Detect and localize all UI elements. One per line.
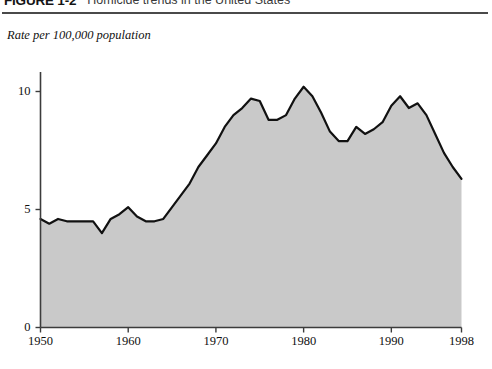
y-tick-label: 5 xyxy=(1,202,31,217)
x-tick-label: 1990 xyxy=(366,334,416,349)
x-tick-label: 1970 xyxy=(191,334,241,349)
chart-area-series xyxy=(41,87,462,328)
x-tick-label: 1980 xyxy=(279,334,329,349)
chart-plot-area xyxy=(0,0,492,369)
x-tick-label: 1950 xyxy=(16,334,66,349)
figure-container: FIGURE 1-2 Homicide trends in the United… xyxy=(0,0,492,369)
x-tick-label: 1960 xyxy=(103,334,153,349)
x-tick-label: 1998 xyxy=(437,334,487,349)
y-tick-label: 10 xyxy=(1,84,31,99)
y-tick-label: 0 xyxy=(1,320,31,335)
area-fill xyxy=(41,87,462,328)
